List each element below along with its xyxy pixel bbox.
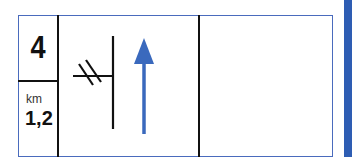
roadbook-card: 4 km 1,2	[0, 0, 352, 167]
side-road-junction-icon	[73, 36, 113, 129]
straight-ahead-arrow-icon	[134, 38, 154, 134]
notes-column	[201, 16, 332, 156]
side-bar	[344, 0, 352, 157]
